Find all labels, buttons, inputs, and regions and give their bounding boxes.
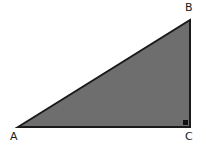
right-triangle-diagram: A B C bbox=[0, 0, 206, 150]
vertex-label-c: C bbox=[185, 131, 193, 142]
vertex-label-b: B bbox=[185, 2, 193, 13]
vertex-label-a: A bbox=[10, 131, 18, 142]
right-angle-marker-icon bbox=[183, 120, 188, 125]
triangle-graphic bbox=[0, 0, 206, 150]
triangle-shape bbox=[18, 20, 190, 127]
